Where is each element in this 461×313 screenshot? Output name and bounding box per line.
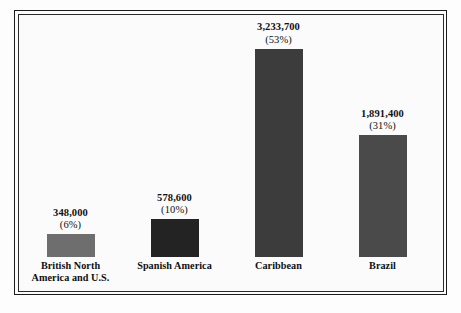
category-label-brazil: Brazil: [331, 257, 435, 273]
category-label-line1: British North: [41, 260, 100, 271]
category-label-line1: Brazil: [369, 260, 396, 271]
bar-rect-british-north-america: [47, 234, 95, 256]
bar-data-label-spanish-america: 578,600 (10%): [157, 192, 192, 217]
bar-group-caribbean: 3,233,700 (53%): [227, 14, 331, 257]
bar-data-label-brazil: 1,891,400 (31%): [361, 108, 404, 133]
bar-percent-spanish-america: (10%): [157, 204, 192, 216]
category-label-caribbean: Caribbean: [227, 257, 331, 273]
category-caption-row: British North America and U.S. Spanish A…: [19, 257, 443, 291]
bar-rect-brazil: [359, 135, 407, 257]
category-label-line1: Caribbean: [255, 260, 302, 271]
bar-group-spanish-america: 578,600 (10%): [123, 14, 227, 257]
chart-frame-outer-rule: 348,000 (6%) 578,600 (10%) 3,2: [14, 10, 447, 295]
bar-data-label-caribbean: 3,233,700 (53%): [257, 21, 300, 46]
figure-page: 348,000 (6%) 578,600 (10%) 3,2: [0, 0, 461, 313]
category-label-british-north-america: British North America and U.S.: [19, 257, 123, 285]
bar-group-british-north-america: 348,000 (6%): [19, 14, 123, 257]
bar-value-spanish-america: 578,600: [157, 192, 192, 204]
bar-rect-spanish-america: [151, 219, 199, 256]
bar-percent-british-north-america: (6%): [53, 219, 88, 231]
bar-percent-caribbean: (53%): [257, 34, 300, 46]
bar-rect-caribbean: [255, 49, 303, 257]
bar-group-brazil: 1,891,400 (31%): [331, 14, 435, 257]
bar-value-caribbean: 3,233,700: [257, 21, 300, 33]
category-label-line2: America and U.S.: [32, 272, 110, 283]
bar-data-label-british-north-america: 348,000 (6%): [53, 207, 88, 232]
category-label-spanish-america: Spanish America: [123, 257, 227, 273]
bar-chart-plot-area: 348,000 (6%) 578,600 (10%) 3,2: [19, 15, 443, 291]
chart-frame-inner-rule: 348,000 (6%) 578,600 (10%) 3,2: [18, 14, 444, 292]
bar-value-brazil: 1,891,400: [361, 108, 404, 120]
category-label-line1: Spanish America: [137, 260, 212, 271]
bar-percent-brazil: (31%): [361, 120, 404, 132]
bar-value-british-north-america: 348,000: [53, 207, 88, 219]
